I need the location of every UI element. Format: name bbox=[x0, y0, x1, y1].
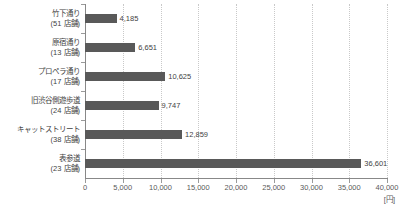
bar bbox=[85, 43, 135, 52]
y-axis-tick bbox=[81, 91, 85, 92]
y-axis-tick bbox=[81, 149, 85, 150]
x-axis-tick-label: 20,000 bbox=[225, 183, 248, 193]
category-label: 原宿通り(13 店舗) bbox=[0, 38, 80, 57]
x-axis-tick-label: 15,000 bbox=[187, 183, 210, 193]
gridline bbox=[161, 4, 162, 178]
gridline bbox=[387, 4, 388, 178]
gridline bbox=[274, 4, 275, 178]
category-label: 旧渋谷側遊歩道(24 店舗) bbox=[0, 96, 80, 115]
gridline bbox=[349, 4, 350, 178]
category-shop-count: (38 店舗) bbox=[0, 135, 80, 145]
plot-area bbox=[85, 4, 387, 178]
category-shop-count: (13 店舗) bbox=[0, 48, 80, 58]
y-axis-tick bbox=[81, 62, 85, 63]
x-axis-tick-label: 40,000 bbox=[376, 183, 399, 193]
category-name: 原宿通り bbox=[0, 38, 80, 48]
x-axis-tick-label: 35,000 bbox=[338, 183, 361, 193]
x-axis-tick-label: 0 bbox=[83, 183, 87, 193]
bar-value-label: 4,185 bbox=[120, 14, 139, 23]
bar-value-label: 12,859 bbox=[185, 130, 208, 139]
category-name: 竹下通り bbox=[0, 9, 80, 19]
bar bbox=[85, 159, 361, 168]
bar-value-label: 6,651 bbox=[138, 43, 157, 52]
category-label: プロペラ通り(17 店舗) bbox=[0, 67, 80, 86]
x-axis-unit-label: [円] bbox=[384, 195, 395, 205]
gridline bbox=[123, 4, 124, 178]
category-label: キャットストリート(38 店舗) bbox=[0, 125, 80, 144]
gridline bbox=[312, 4, 313, 178]
y-axis-tick bbox=[81, 33, 85, 34]
x-axis-tick-label: 10,000 bbox=[149, 183, 172, 193]
gridline bbox=[236, 4, 237, 178]
gridline bbox=[198, 4, 199, 178]
category-name: 表参道 bbox=[0, 154, 80, 164]
bar-value-label: 36,601 bbox=[364, 159, 387, 168]
x-axis-tick-label: 5,000 bbox=[113, 183, 132, 193]
bar bbox=[85, 72, 165, 81]
bar-chart: 4,1856,65110,6259,74712,85936,601 竹下通り(5… bbox=[0, 0, 399, 209]
bar-value-label: 10,625 bbox=[168, 72, 191, 81]
category-label: 竹下通り(51 店舗) bbox=[0, 9, 80, 28]
category-shop-count: (17 店舗) bbox=[0, 77, 80, 87]
x-axis-tick-label: 30,000 bbox=[300, 183, 323, 193]
category-name: 旧渋谷側遊歩道 bbox=[0, 96, 80, 106]
bar bbox=[85, 130, 182, 139]
bar bbox=[85, 14, 117, 23]
y-axis-tick bbox=[81, 4, 85, 5]
bar bbox=[85, 101, 159, 110]
y-axis-tick bbox=[81, 120, 85, 121]
category-shop-count: (24 店舗) bbox=[0, 106, 80, 116]
bar-value-label: 9,747 bbox=[162, 101, 181, 110]
category-shop-count: (23 店舗) bbox=[0, 164, 80, 174]
category-name: キャットストリート bbox=[0, 125, 80, 135]
category-label: 表参道(23 店舗) bbox=[0, 154, 80, 173]
y-axis-line bbox=[85, 4, 86, 179]
category-shop-count: (51 店舗) bbox=[0, 19, 80, 29]
category-name: プロペラ通り bbox=[0, 67, 80, 77]
x-axis-tick-label: 25,000 bbox=[262, 183, 285, 193]
